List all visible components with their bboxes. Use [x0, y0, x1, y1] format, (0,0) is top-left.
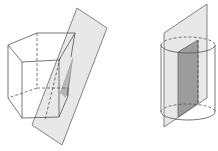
pentagonal-prism-figure	[8, 8, 107, 145]
cylinder-figure	[161, 4, 215, 127]
section-right	[178, 40, 198, 117]
geometry-diagram	[0, 0, 218, 151]
